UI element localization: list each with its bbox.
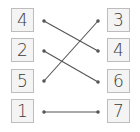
- line-2-to-6: [44, 51, 98, 82]
- line-4-to-4: [44, 21, 98, 51]
- connection-lines: [0, 0, 140, 132]
- line-5-to-3: [44, 21, 98, 81]
